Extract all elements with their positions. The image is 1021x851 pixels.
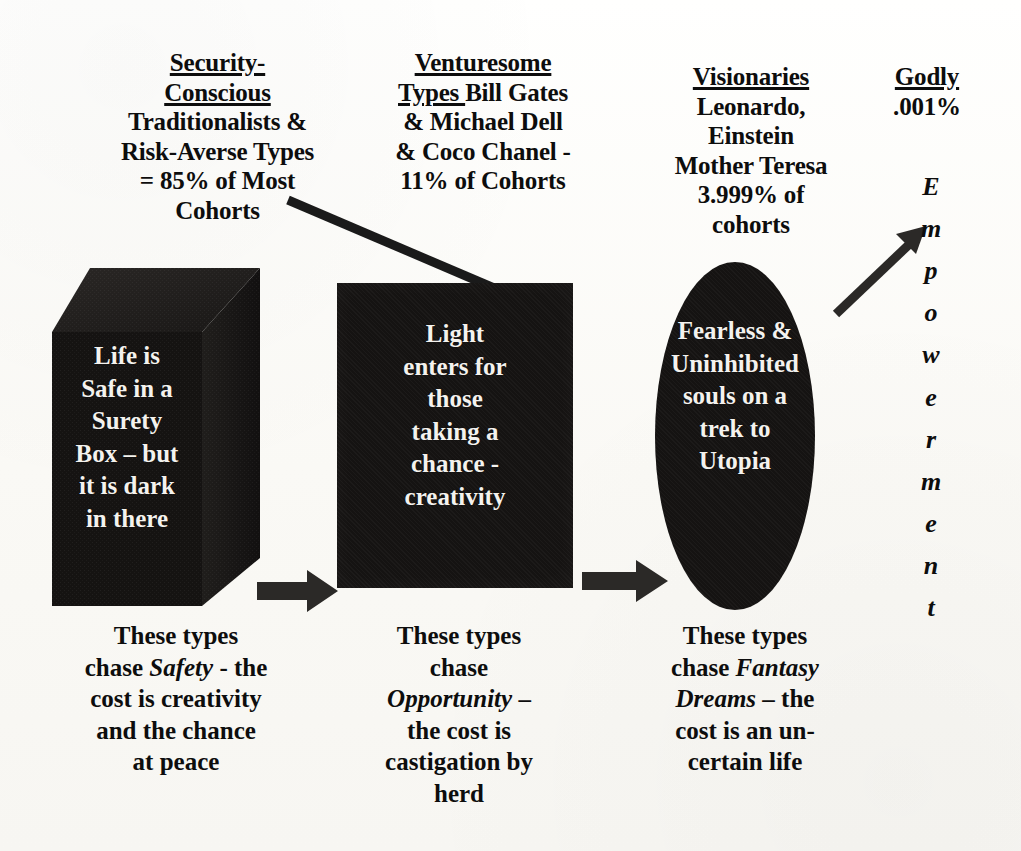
header-underlined-line: Visionaries bbox=[645, 62, 857, 92]
shape-text-line: Uninhibited bbox=[639, 348, 831, 381]
caption-opportunity: These types chase Opportunity – the cost… bbox=[345, 620, 573, 809]
caption-line: These types bbox=[46, 620, 306, 652]
shape-text-line: chance - bbox=[337, 448, 573, 481]
opportunity-box-shape: Light enters for those taking a chance -… bbox=[337, 283, 573, 588]
caption-safety: These types chase Safety - the cost is c… bbox=[46, 620, 306, 778]
shape-text-line: those bbox=[337, 383, 573, 416]
shape-text-line: Utopia bbox=[639, 445, 831, 478]
empowerment-letter: m bbox=[908, 208, 954, 250]
shape-text-line: in there bbox=[52, 503, 202, 536]
header-line: .001% bbox=[862, 92, 992, 122]
caption-text: - the bbox=[213, 654, 267, 681]
caption-text: chase bbox=[671, 654, 736, 681]
shape-text-line: creativity bbox=[337, 481, 573, 514]
empowerment-letter: m bbox=[908, 461, 954, 503]
shape-text-line: souls on a bbox=[639, 380, 831, 413]
caption-fantasy: These types chase Fantasy Dreams – the c… bbox=[620, 620, 870, 778]
empowerment-vertical-label: E m p o w e r m e n t bbox=[908, 166, 954, 629]
surety-box-shape: Life is Safe in a Surety Box – but it is… bbox=[44, 262, 262, 608]
empowerment-letter: e bbox=[908, 377, 954, 419]
caption-line: at peace bbox=[46, 746, 306, 778]
shape-text-line: enters for bbox=[337, 351, 573, 384]
header-line: & Michael Dell bbox=[368, 107, 598, 137]
shape-text-line: Surety bbox=[52, 405, 202, 438]
caption-emphasis: Opportunity bbox=[387, 685, 512, 712]
header-line: Einstein bbox=[645, 121, 857, 151]
empowerment-letter: E bbox=[908, 166, 954, 208]
surety-box-text: Life is Safe in a Surety Box – but it is… bbox=[52, 340, 202, 535]
header-inline-text: Bill Gates bbox=[465, 79, 568, 106]
caption-line: cost is creativity bbox=[46, 683, 306, 715]
caption-line: certain life bbox=[620, 746, 870, 778]
caption-emphasis: Safety bbox=[149, 654, 213, 681]
shape-text-line: Safe in a bbox=[52, 373, 202, 406]
arrow-rect-to-ellipse-icon bbox=[580, 558, 670, 604]
empowerment-letter: n bbox=[908, 545, 954, 587]
header-underlined-line: Conscious bbox=[95, 78, 340, 108]
header-venturesome: Venturesome Types Bill Gates & Michael D… bbox=[368, 48, 598, 196]
header-line: Traditionalists & bbox=[95, 107, 340, 137]
empowerment-letter: t bbox=[908, 587, 954, 629]
caption-line: These types bbox=[345, 620, 573, 652]
header-line: Leonardo, bbox=[645, 92, 857, 122]
empowerment-letter: e bbox=[908, 503, 954, 545]
header-line: Risk-Averse Types bbox=[95, 137, 340, 167]
caption-line: These types bbox=[620, 620, 870, 652]
arrow-cube-to-rect-icon bbox=[255, 568, 340, 614]
caption-line: the cost is bbox=[345, 715, 573, 747]
header-visionaries: Visionaries Leonardo, Einstein Mother Te… bbox=[645, 62, 857, 239]
header-line: Mother Teresa bbox=[645, 151, 857, 181]
header-underlined-line: Types bbox=[398, 79, 465, 106]
diagram-canvas: Security- Conscious Traditionalists & Ri… bbox=[0, 0, 1021, 851]
opportunity-box-text: Light enters for those taking a chance -… bbox=[337, 318, 573, 513]
caption-text: – the bbox=[756, 685, 814, 712]
visionary-oval-shape: Fearless & Uninhibited souls on a trek t… bbox=[655, 262, 815, 610]
caption-line: chase Fantasy bbox=[620, 652, 870, 684]
caption-line: herd bbox=[345, 778, 573, 810]
shape-text-line: Box – but bbox=[52, 438, 202, 471]
shape-text-line: trek to bbox=[639, 413, 831, 446]
shape-text-line: taking a bbox=[337, 416, 573, 449]
empowerment-letter: r bbox=[908, 419, 954, 461]
caption-line: chase Safety - the bbox=[46, 652, 306, 684]
caption-line: and the chance bbox=[46, 715, 306, 747]
caption-line: chase bbox=[345, 652, 573, 684]
visionary-oval-text: Fearless & Uninhibited souls on a trek t… bbox=[639, 315, 831, 478]
shape-text-line: it is dark bbox=[52, 470, 202, 503]
caption-line: Opportunity – bbox=[345, 683, 573, 715]
header-underlined-line: Security- bbox=[95, 48, 340, 78]
empowerment-letter: w bbox=[908, 334, 954, 376]
header-underlined-line: Venturesome bbox=[368, 48, 598, 78]
caption-text: – bbox=[512, 685, 531, 712]
header-underlined-line: Godly bbox=[862, 62, 992, 92]
empowerment-letter: o bbox=[908, 292, 954, 334]
shape-text-line: Life is bbox=[52, 340, 202, 373]
caption-line: cost is an un- bbox=[620, 715, 870, 747]
caption-text: chase bbox=[85, 654, 150, 681]
caption-emphasis: Dreams bbox=[676, 685, 757, 712]
header-line-mixed: Types Bill Gates bbox=[368, 78, 598, 108]
header-line: & Coco Chanel - bbox=[368, 137, 598, 167]
header-godly: Godly .001% bbox=[862, 62, 992, 121]
caption-line: Dreams – the bbox=[620, 683, 870, 715]
header-line: 3.999% of bbox=[645, 180, 857, 210]
shape-text-line: Fearless & bbox=[639, 315, 831, 348]
shape-text-line: Light bbox=[337, 318, 573, 351]
empowerment-letter: p bbox=[908, 250, 954, 292]
caption-line: castigation by bbox=[345, 746, 573, 778]
caption-emphasis: Fantasy bbox=[736, 654, 819, 681]
